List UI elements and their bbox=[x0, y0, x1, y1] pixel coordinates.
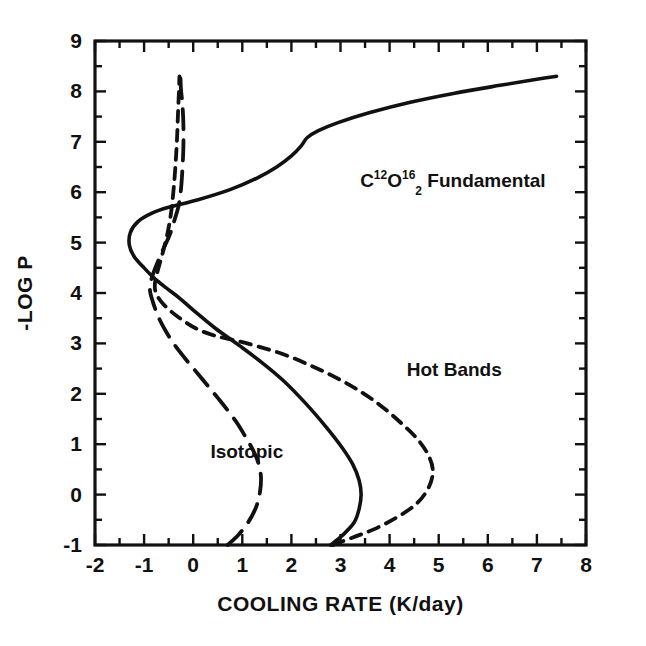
y-tick-label: 6 bbox=[70, 180, 82, 203]
figure-root: -2-1012345678 -10123456789 COOLING RATE … bbox=[0, 0, 646, 646]
x-tick-label: 3 bbox=[335, 553, 347, 576]
x-tick-label: 4 bbox=[384, 553, 396, 576]
y-tick-label: 7 bbox=[70, 130, 82, 153]
chart-background bbox=[0, 0, 646, 646]
y-tick-label: -1 bbox=[63, 533, 82, 556]
y-tick-label: 2 bbox=[70, 382, 82, 405]
y-tick-label: 5 bbox=[70, 231, 82, 254]
x-tick-label: -1 bbox=[135, 553, 154, 576]
x-tick-label: 6 bbox=[482, 553, 494, 576]
x-tick-label: 5 bbox=[433, 553, 445, 576]
y-tick-label: 9 bbox=[70, 29, 82, 52]
y-tick-label: 3 bbox=[70, 331, 82, 354]
y-axis-title: -LOG P bbox=[13, 255, 36, 330]
x-tick-label: 2 bbox=[286, 553, 298, 576]
annotation-isotopic: Isotopic bbox=[210, 441, 283, 462]
y-tick-label: 4 bbox=[70, 281, 82, 304]
y-tick-label: 8 bbox=[70, 79, 82, 102]
x-tick-label: -2 bbox=[86, 553, 105, 576]
y-tick-label: 1 bbox=[70, 432, 82, 455]
annotation-hot-bands: Hot Bands bbox=[407, 359, 502, 380]
cooling-rate-chart: -2-1012345678 -10123456789 COOLING RATE … bbox=[0, 0, 646, 646]
x-tick-label: 8 bbox=[580, 553, 592, 576]
x-tick-label: 0 bbox=[187, 553, 199, 576]
x-tick-label: 1 bbox=[236, 553, 248, 576]
x-axis-title: COOLING RATE (K/day) bbox=[217, 592, 463, 615]
y-tick-label: 0 bbox=[70, 483, 82, 506]
x-tick-label: 7 bbox=[531, 553, 543, 576]
